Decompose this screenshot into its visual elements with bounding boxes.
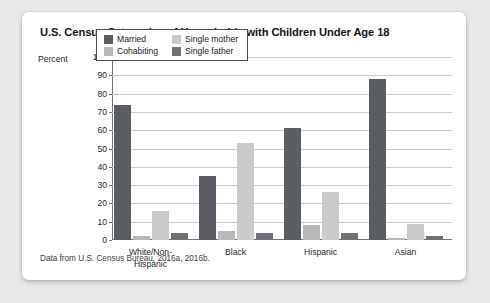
legend-label: Married [117, 34, 146, 44]
legend-entry[interactable]: Married [104, 34, 158, 44]
legend-label: Cohabiting [117, 46, 158, 56]
legend-label: Single father [185, 46, 233, 56]
bar[interactable] [218, 231, 235, 240]
y-axis-tick-label: 80 [97, 89, 107, 99]
bar[interactable] [407, 224, 424, 240]
legend-swatch-icon [172, 47, 181, 56]
bar[interactable] [322, 192, 339, 240]
bar[interactable] [171, 233, 188, 240]
legend-label: Single mother [185, 34, 238, 44]
legend-swatch-icon [104, 35, 113, 44]
y-axis-tick-mark [109, 75, 112, 76]
bar[interactable] [237, 143, 254, 240]
bar-group: Black [199, 57, 273, 240]
bar[interactable] [369, 79, 386, 240]
legend-swatch-icon [172, 35, 181, 44]
y-axis-tick-label: 50 [97, 144, 107, 154]
bar[interactable] [114, 105, 131, 240]
y-axis-tick-label: 70 [97, 107, 107, 117]
y-axis-tick-label: 90 [97, 70, 107, 80]
y-axis-tick-mark [109, 167, 112, 168]
y-axis-tick-label: 40 [97, 162, 107, 172]
bar-group: White/Non-Hispanic [114, 57, 188, 240]
legend-entry[interactable]: Cohabiting [104, 46, 158, 56]
y-axis-tick-mark [109, 222, 112, 223]
y-axis-tick-mark [109, 185, 112, 186]
bar[interactable] [341, 233, 358, 240]
y-axis-tick-label: 30 [97, 180, 107, 190]
source-note: Data from U.S. Census Bureau, 2016a, 201… [40, 254, 210, 263]
bar[interactable] [426, 236, 443, 240]
figure-card: U.S. Census Categories of Households wit… [22, 12, 466, 280]
x-axis-category-label: Hispanic [304, 247, 337, 259]
y-axis-tick-label: 20 [97, 198, 107, 208]
y-axis-tick-label: 0 [102, 235, 107, 245]
y-axis-tick-mark [109, 203, 112, 204]
y-axis-tick-mark [109, 112, 112, 113]
y-axis-tick-mark [109, 130, 112, 131]
y-axis-tick-label: 10 [97, 217, 107, 227]
y-axis-unit-label: Percent [38, 54, 68, 64]
legend-swatch-icon [104, 47, 113, 56]
bar[interactable] [152, 211, 169, 240]
y-axis-tick-mark [109, 94, 112, 95]
bar[interactable] [303, 225, 320, 240]
legend-entry[interactable]: Single father [172, 46, 238, 56]
bar-group: Hispanic [284, 57, 358, 240]
x-axis-category-label: Asian [395, 247, 417, 259]
bar-group: Asian [369, 57, 443, 240]
y-axis-tick-mark [109, 240, 112, 241]
x-axis-category-label: Black [225, 247, 246, 259]
chart-legend: MarriedSingle motherCohabitingSingle fat… [96, 29, 248, 61]
bar[interactable] [133, 236, 150, 240]
bar[interactable] [256, 233, 273, 240]
y-axis-tick-label: 60 [97, 125, 107, 135]
legend-entry[interactable]: Single mother [172, 34, 238, 44]
bar[interactable] [388, 238, 405, 240]
y-axis-tick-mark [109, 149, 112, 150]
bar[interactable] [284, 128, 301, 240]
bar[interactable] [199, 176, 216, 240]
plot-area: 0102030405060708090100 White/Non-Hispani… [112, 57, 452, 240]
